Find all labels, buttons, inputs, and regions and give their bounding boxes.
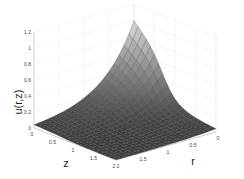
z-axis-label: u(r,z) [12,89,24,114]
z-tick-label: 0.5 [49,139,56,145]
y-axis-label: r [191,155,195,167]
r-tick-label: 1.5 [140,156,147,162]
r-tick-label: 1 [167,149,170,155]
u-tick-label: 1.2 [24,29,31,35]
u-tick-label: 0.6 [24,77,31,83]
z-tick-label: 0 [31,131,34,137]
z-tick-label: 1 [72,147,75,153]
x-axis-label: z [63,157,69,169]
u-tick-label: 0.4 [24,93,31,99]
z-tick-label: 2 [113,163,116,169]
u-tick-label: 0.2 [24,109,31,115]
r-tick-label: 2 [117,163,120,169]
u-tick-label: 1 [28,45,31,51]
u-tick-label: 0.8 [24,61,31,67]
r-tick-label: 0.5 [190,142,197,148]
r-tick-label: 0 [217,135,220,141]
surface-plot: 00.20.40.60.811.200.511.5200.511.52 u(r,… [0,0,244,179]
z-tick-label: 1.5 [90,155,97,161]
